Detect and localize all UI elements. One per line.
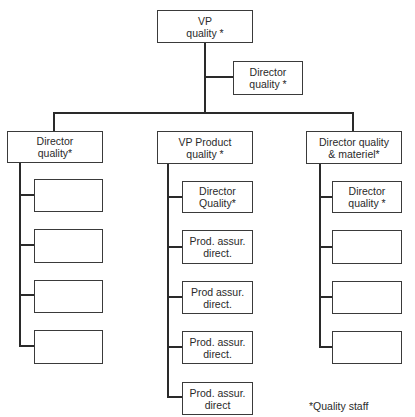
right-head-box: Director quality & materiel*: [306, 131, 402, 164]
middle-child-2-line1: Prod. assur.: [189, 235, 245, 247]
staff-line1: Director: [250, 66, 287, 78]
footnote-quality-staff: *Quality staff: [309, 400, 368, 412]
middle-child-box-4: Prod. assur. direct.: [182, 331, 253, 364]
middle-child-box-5: Prod. assur. direct: [182, 382, 253, 415]
left-branch-4: [19, 345, 34, 347]
left-drop-line: [53, 112, 55, 132]
middle-child-2-line2: direct.: [203, 247, 232, 259]
right-child-1-line1: Director: [349, 185, 386, 197]
right-branch-1: [319, 196, 333, 198]
middle-head-line2: quality *: [186, 148, 223, 160]
left-child-box-4: [34, 330, 103, 364]
middle-child-4-line1: Prod. assur.: [189, 336, 245, 348]
left-child-box-1: [34, 179, 103, 212]
middle-child-5-line2: direct: [205, 399, 231, 411]
middle-branch-1: [167, 196, 182, 198]
right-head-line2: & materiel*: [328, 148, 379, 160]
right-drop-line: [352, 112, 354, 132]
right-branch-3: [319, 296, 333, 298]
vp-quality-box: VP quality *: [157, 10, 253, 43]
right-head-line1: Director quality: [319, 136, 389, 148]
middle-spine-line: [167, 164, 169, 398]
left-branch-2: [19, 244, 34, 246]
middle-branch-2: [167, 246, 182, 248]
left-branch-1: [19, 194, 34, 196]
left-head-line2: quality*: [38, 147, 72, 159]
vp-quality-line2: quality *: [186, 27, 223, 39]
left-branch-3: [19, 294, 34, 296]
right-child-1-line2: quality *: [348, 197, 385, 209]
middle-child-1-line2: Quality*: [199, 197, 236, 209]
right-branch-2: [319, 246, 333, 248]
staff-director-quality-box: Director quality *: [233, 61, 303, 95]
middle-child-1-line1: Director: [199, 185, 236, 197]
middle-child-3-line1: Prod assur.: [191, 286, 244, 298]
middle-child-box-3: Prod assur. direct.: [182, 281, 253, 314]
middle-branch-3: [167, 296, 182, 298]
horizontal-bus-line: [53, 112, 205, 114]
staff-connector-line: [204, 76, 234, 78]
middle-child-box-1: Director Quality*: [182, 181, 253, 213]
right-spine-line: [319, 164, 321, 348]
left-head-box: Director quality*: [7, 131, 103, 163]
middle-head-box: VP Product quality *: [157, 131, 253, 164]
right-child-box-3: [332, 281, 402, 314]
staff-line2: quality *: [249, 78, 286, 90]
middle-child-3-line2: direct.: [203, 298, 232, 310]
left-child-box-2: [34, 229, 103, 263]
left-child-box-3: [34, 280, 103, 313]
middle-child-box-2: Prod. assur. direct.: [182, 230, 253, 264]
middle-branch-4: [167, 346, 182, 348]
horizontal-bus-line-right: [204, 112, 354, 114]
vp-quality-line1: VP: [198, 15, 212, 27]
right-child-box-2: [332, 230, 402, 264]
left-head-line1: Director: [37, 135, 74, 147]
middle-child-4-line2: direct.: [203, 348, 232, 360]
middle-child-5-line1: Prod. assur.: [189, 387, 245, 399]
right-child-box-4: [332, 331, 402, 364]
left-spine-line: [19, 163, 21, 347]
root-trunk-line: [204, 42, 206, 114]
middle-branch-5: [167, 396, 182, 398]
right-branch-4: [319, 346, 333, 348]
right-child-box-1: Director quality *: [332, 181, 402, 213]
middle-head-line1: VP Product: [179, 136, 232, 148]
